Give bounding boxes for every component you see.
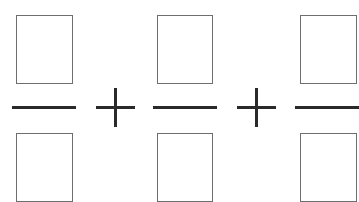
denominator-box-3[interactable] — [300, 133, 357, 202]
plus-icon-vertical — [114, 88, 117, 127]
plus-operator-1 — [96, 88, 135, 127]
numerator-box-2[interactable] — [157, 15, 213, 84]
plus-icon-vertical — [255, 88, 258, 127]
denominator-box-1[interactable] — [16, 133, 73, 202]
plus-operator-2 — [237, 88, 276, 127]
numerator-box-3[interactable] — [300, 15, 357, 84]
denominator-box-2[interactable] — [157, 133, 213, 202]
fraction-bar-2 — [153, 106, 217, 109]
fraction-bar-3 — [295, 106, 359, 109]
fraction-bar-1 — [12, 106, 76, 109]
numerator-box-1[interactable] — [16, 15, 73, 84]
